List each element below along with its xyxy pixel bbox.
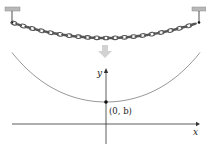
coordinate-axes: [12, 68, 200, 144]
hanging-chain: [11, 21, 197, 40]
catenary-diagram: y x (0, b): [0, 0, 206, 149]
right-anchor: [192, 7, 206, 24]
x-axis-arrow-icon: [196, 122, 200, 126]
y-axis-arrow-icon: [104, 68, 108, 73]
down-arrow-icon: [98, 45, 112, 58]
x-axis-label: x: [193, 127, 198, 137]
y-axis-label: y: [96, 68, 103, 78]
point-label: (0, b): [109, 106, 132, 116]
vertex-point: [104, 100, 108, 104]
